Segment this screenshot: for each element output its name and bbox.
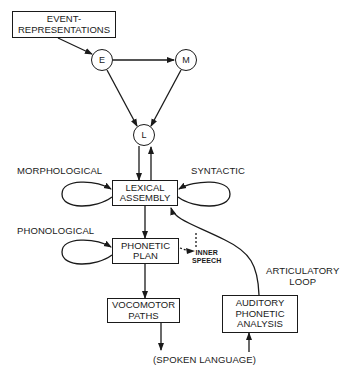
articulatory-line1: ARTICULATORY	[266, 265, 339, 276]
lexical-line2: ASSEMBLY	[120, 193, 171, 204]
vocomotor-line1: VOCOMOTOR	[112, 300, 175, 311]
vocomotor-paths-box: VOCOMOTOR PATHS	[107, 298, 180, 323]
articulatory-line2: LOOP	[266, 276, 339, 287]
syntactic-loop	[178, 182, 230, 206]
label-spoken-language: (SPOKEN LANGUAGE)	[153, 354, 256, 365]
phonetic-line2: PLAN	[133, 251, 158, 262]
event-representations-box: EVENT- REPRESENTATIONS	[12, 11, 116, 38]
node-l: L	[133, 124, 155, 146]
label-inner-speech: INNER SPEECH	[192, 249, 221, 265]
inner-speech-line1: INNER	[192, 249, 221, 257]
phonetic-plan-box: PHONETIC PLAN	[112, 238, 179, 264]
morphological-loop	[62, 182, 112, 206]
auditory-line3: ANALYSIS	[237, 319, 283, 330]
label-syntactic: SYNTACTIC	[191, 165, 245, 176]
node-m: M	[175, 49, 197, 71]
label-morphological: MORPHOLOGICAL	[17, 165, 102, 176]
node-e: E	[91, 49, 113, 71]
event-line2: REPRESENTATIONS	[18, 25, 110, 36]
auditory-phonetic-analysis-box: AUDITORY PHONETIC ANALYSIS	[222, 295, 298, 333]
phonological-loop	[62, 240, 112, 264]
event-line1: EVENT-	[47, 14, 81, 25]
arrow-event-to-e	[58, 38, 92, 54]
arrow-m-to-l	[151, 70, 181, 126]
lexical-assembly-box: LEXICAL ASSEMBLY	[112, 180, 178, 206]
vocomotor-line2: PATHS	[128, 311, 158, 322]
label-articulatory-loop: ARTICULATORY LOOP	[266, 265, 339, 287]
label-phonological: PHONOLOGICAL	[17, 225, 94, 236]
inner-speech-line2: SPEECH	[192, 257, 221, 265]
arrow-e-to-l	[107, 70, 137, 126]
